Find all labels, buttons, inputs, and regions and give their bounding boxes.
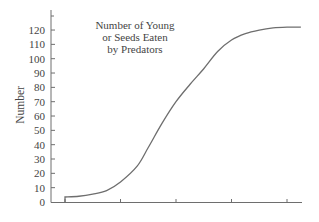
y-tick-label: 50 <box>34 124 46 136</box>
series-line <box>65 27 301 202</box>
chart-title: Number of Young or Seeds Eaten by Predat… <box>95 19 175 55</box>
y-tick-label: 20 <box>34 167 46 179</box>
y-tick-label: 0 <box>40 196 46 208</box>
chart: Number of Young or Seeds Eaten by Predat… <box>0 0 319 222</box>
y-tick-label: 40 <box>34 139 46 151</box>
y-tick-label: 10 <box>34 182 46 194</box>
chart-title-line-1: Number of Young <box>95 19 175 31</box>
y-axis: 0102030405060708090100110120 <box>29 10 56 208</box>
chart-title-line-3: by Predators <box>107 43 162 55</box>
chart-title-line-2: or Seeds Eaten <box>102 31 168 43</box>
x-axis <box>51 199 302 203</box>
y-tick-label: 100 <box>29 53 46 65</box>
y-tick-label: 120 <box>29 24 46 36</box>
y-tick-label: 80 <box>34 81 46 93</box>
y-tick-label: 90 <box>34 67 46 79</box>
y-axis-label: Number <box>14 86 26 124</box>
y-tick-label: 30 <box>34 153 46 165</box>
y-tick-label: 70 <box>34 96 46 108</box>
y-tick-label: 110 <box>29 38 46 50</box>
y-tick-label: 60 <box>34 110 46 122</box>
